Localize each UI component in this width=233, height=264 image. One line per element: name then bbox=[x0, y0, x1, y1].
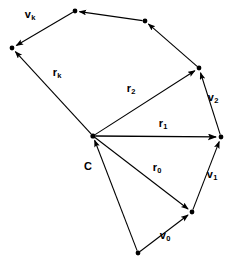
vertex-dot-p5 bbox=[73, 9, 78, 14]
vertex-dot-p6 bbox=[10, 46, 15, 51]
vector-rk bbox=[15, 52, 91, 134]
vertex-dot-center bbox=[90, 133, 95, 138]
label-r0: r0 bbox=[153, 162, 161, 173]
label-r2: r2 bbox=[127, 83, 135, 94]
vertex-dot-p0 bbox=[136, 251, 141, 256]
vector-r2 bbox=[95, 71, 195, 135]
label-r0-sub: 0 bbox=[157, 166, 161, 175]
vector-r0 bbox=[95, 138, 188, 209]
label-v0: v0 bbox=[160, 230, 170, 241]
label-r2-sub: 2 bbox=[131, 87, 135, 96]
label-r0-base: r bbox=[153, 161, 157, 173]
label-v2-sub: 2 bbox=[214, 96, 218, 105]
label-rk-base: r bbox=[53, 66, 57, 78]
vertex-dot-p2 bbox=[219, 135, 224, 140]
edge-p3-p4 bbox=[148, 24, 197, 66]
label-r1-base: r bbox=[159, 117, 163, 129]
label-r2-base: r bbox=[127, 82, 131, 94]
label-rk: rk bbox=[53, 67, 61, 78]
label-v2: v2 bbox=[208, 92, 218, 103]
label-v1-sub: 1 bbox=[213, 173, 217, 182]
vector-r1 bbox=[95, 136, 216, 137]
vertex-dots bbox=[10, 9, 224, 256]
diagram-canvas bbox=[0, 0, 233, 264]
vector-diagram-figure: vk v0 v1 v2 rk r0 r1 r2 C bbox=[0, 0, 233, 264]
label-rk-sub: k bbox=[57, 71, 61, 80]
plain-edges bbox=[79, 12, 197, 251]
velocity-vectors bbox=[16, 12, 220, 251]
edge-p4-p5 bbox=[79, 12, 142, 21]
vertex-dot-p3 bbox=[197, 66, 202, 71]
radius-vectors bbox=[15, 52, 216, 209]
edge-p0-center bbox=[95, 140, 137, 250]
label-center-c: C bbox=[84, 161, 92, 172]
vertex-dot-p4 bbox=[143, 19, 148, 24]
label-r1-sub: 1 bbox=[163, 122, 167, 131]
label-r1: r1 bbox=[159, 118, 167, 129]
label-v0-sub: 0 bbox=[166, 234, 170, 243]
label-vk: vk bbox=[25, 9, 35, 20]
vertex-dot-p1 bbox=[190, 210, 195, 215]
label-v1: v1 bbox=[207, 169, 217, 180]
label-vk-sub: k bbox=[31, 13, 35, 22]
